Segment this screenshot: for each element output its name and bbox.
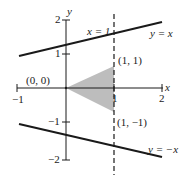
y-axis-label: y [67,6,72,17]
tick-label-x-1: 1 [112,93,118,104]
tick-label-y-neg1: −1 [48,116,60,127]
tick-label-x-neg1: −1 [12,94,24,105]
label-x-eq-1-text: x = 1 [87,25,110,37]
tick-label-y-2: 2 [55,14,61,25]
label-line-x-eq-1: x = 1 [87,26,110,37]
point-origin [65,87,67,89]
label-point-upper: (1, 1) [118,55,142,66]
label-line-y-eq-neg-x: y = −x [148,144,178,155]
tick-label-y-neg2: −2 [48,154,60,165]
label-point-origin: (0, 0) [26,75,50,86]
line-y-eq-neg-x [19,124,162,157]
shaded-region [66,66,114,112]
tick-label-x-2: 2 [159,93,165,104]
tick-label-y-1: 1 [55,48,61,59]
label-line-y-eq-x: y = x [150,28,173,39]
label-point-lower: (1, −1) [117,117,147,128]
x-axis-label: x [165,82,170,93]
